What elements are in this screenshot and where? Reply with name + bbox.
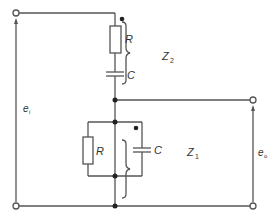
- output-voltage-subscript: o: [264, 153, 268, 159]
- z1-label: Z: [186, 146, 195, 158]
- z2-label: Z: [161, 50, 170, 62]
- input-voltage-subscript: i: [29, 109, 30, 115]
- junction-dot: [113, 174, 118, 179]
- bottom-resistor: [83, 137, 93, 164]
- output-terminal-top: [250, 97, 256, 103]
- top-resistor: [110, 26, 121, 53]
- z2-subscript: 2: [170, 57, 174, 64]
- junction-dot: [113, 204, 118, 209]
- polarity-dot-bottom: [134, 126, 139, 131]
- bottom-resistor-label: R: [96, 145, 104, 157]
- circuit-svg: R C R C Z 2 Z 1 e i e o: [0, 0, 280, 220]
- circuit-diagram: R C R C Z 2 Z 1 e i e o: [0, 0, 280, 220]
- top-resistor-label: R: [125, 33, 133, 45]
- z1-brace: [122, 140, 130, 198]
- input-terminal-bottom: [13, 203, 19, 209]
- input-terminal-top: [13, 10, 19, 16]
- output-arrowhead-icon: [251, 105, 255, 111]
- junction-dot: [113, 98, 118, 103]
- bottom-capacitor-label: C: [154, 144, 162, 156]
- junction-dot: [113, 120, 118, 125]
- input-arrowhead-icon: [14, 18, 18, 24]
- top-capacitor-label: C: [127, 69, 135, 81]
- z1-subscript: 1: [195, 153, 199, 160]
- output-terminal-bottom: [250, 203, 256, 209]
- polarity-dot-top: [120, 17, 125, 22]
